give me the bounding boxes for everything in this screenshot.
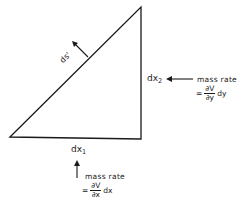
bottom-side-label-sub: 1 xyxy=(82,148,86,156)
right-flow-arrowhead-icon xyxy=(166,76,172,82)
bottom-flow-arrowhead-icon xyxy=(74,160,80,166)
bottom-side-label-main: dx xyxy=(71,144,82,154)
bottom-flow-title: mass rate xyxy=(85,173,125,181)
right-flow-equals: = xyxy=(196,89,202,98)
vertical-side-label: dx2 xyxy=(147,74,162,85)
triangle-diagram xyxy=(0,0,242,214)
bottom-flow-expression: = ∂V ∂x dx xyxy=(82,182,113,200)
right-flow-fraction: ∂V ∂y xyxy=(204,85,215,103)
bottom-side-label: dx1 xyxy=(71,145,86,156)
right-flow-denominator: ∂y xyxy=(206,94,214,102)
vertical-side-label-main: dx xyxy=(147,73,158,83)
bottom-flow-fraction: ∂V ∂x xyxy=(90,182,101,200)
right-flow-factor: dy xyxy=(217,89,226,98)
right-flow-title: mass rate xyxy=(197,76,237,84)
bottom-flow-equals: = xyxy=(82,186,88,195)
hypotenuse-normal-arrow xyxy=(75,44,88,57)
bottom-flow-factor: dx xyxy=(103,186,112,195)
vertical-side-label-sub: 2 xyxy=(158,77,162,85)
bottom-flow-denominator: ∂x xyxy=(92,191,100,199)
triangle-control-volume xyxy=(10,7,141,139)
right-flow-expression: = ∂V ∂y dy xyxy=(196,85,227,103)
